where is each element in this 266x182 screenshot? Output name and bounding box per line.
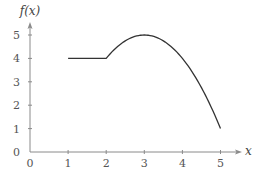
x-tick-label: 2 — [103, 157, 110, 170]
y-tick-label: 5 — [13, 29, 20, 42]
y-tick-label: 1 — [13, 123, 20, 136]
y-tick-label: 0 — [13, 146, 20, 159]
y-tick-label: 2 — [13, 99, 20, 112]
x-tick-label: 4 — [179, 157, 186, 170]
series — [68, 35, 220, 129]
x-tick-label: 3 — [141, 157, 148, 170]
y-tick-label: 4 — [13, 52, 20, 65]
x-tick-label: 5 — [217, 157, 224, 170]
function-curve — [68, 35, 220, 129]
ticks: 012345012345 — [13, 29, 224, 170]
x-axis-label: x — [245, 144, 252, 158]
function-plot: 012345012345 x f(x) — [0, 0, 266, 182]
x-tick-label: 0 — [27, 157, 34, 170]
x-tick-label: 1 — [65, 157, 72, 170]
y-tick-label: 3 — [13, 76, 20, 89]
y-axis-label: f(x) — [19, 4, 41, 18]
axes — [28, 22, 243, 155]
